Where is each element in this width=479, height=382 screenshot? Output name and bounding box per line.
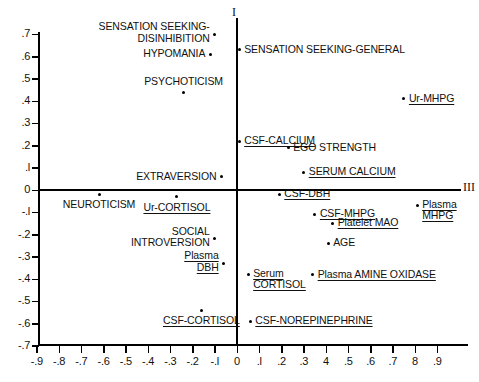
data-point-label: Ur-CORTISOL: [107, 202, 247, 214]
scatter-plot-figure: I III .7.6.5.4.3.2.l0-.l-.2-.3-.4-.5-.6-…: [0, 0, 479, 382]
data-point-label: SERUM CALCIUM: [309, 166, 396, 178]
data-point-marker: [220, 175, 223, 178]
data-point-label: AGE: [333, 237, 355, 249]
data-point-label: Plasma MHPG: [422, 199, 456, 222]
data-point-label: HYPOMANIA: [143, 48, 205, 60]
data-point-marker: [331, 222, 334, 225]
data-point-label: Plasma AMINE OXIDASE: [318, 269, 436, 281]
x-axis-tick-mark: [348, 346, 350, 353]
x-zero-axis-line: [38, 189, 461, 191]
y-axis-tick-label: -.7: [0, 340, 30, 351]
data-point-marker: [311, 273, 314, 276]
data-point-marker: [402, 97, 405, 100]
x-axis-tick-mark: [148, 346, 150, 353]
y-axis-tick-label: .6: [0, 51, 30, 62]
y-axis-tick-label: .7: [0, 28, 30, 39]
y-axis-tick-mark: [32, 212, 39, 214]
y-axis-tick-label: .2: [0, 140, 30, 151]
data-point-marker: [302, 171, 305, 174]
data-point-marker: [213, 237, 216, 240]
x-axis-tick-mark: [36, 346, 38, 353]
data-point-label: Platelet MAO: [338, 217, 399, 229]
y-axis-tick-label: -.l: [0, 206, 30, 217]
data-point-label: EXTRAVERSION: [136, 171, 216, 183]
y-axis-tick-mark: [32, 234, 39, 236]
y-axis-tick-label: -.6: [0, 318, 30, 329]
data-point-marker: [98, 193, 101, 196]
data-point-marker: [247, 273, 250, 276]
data-point-label: Ur-MHPG: [409, 93, 454, 105]
data-point-marker: [278, 193, 281, 196]
y-axis-tick-label: -.3: [0, 251, 30, 262]
x-axis-tick-mark: [237, 346, 239, 353]
data-point-label: CSF-DBH: [284, 188, 330, 200]
y-axis-tick-mark: [32, 256, 39, 258]
data-point-label: Serum CORTISOL: [253, 268, 306, 291]
data-point-marker: [213, 33, 216, 36]
y-axis-tick-mark: [32, 301, 39, 303]
x-axis-tick-mark: [59, 346, 61, 353]
data-point-marker: [209, 53, 212, 56]
data-point-marker: [249, 320, 252, 323]
y-axis-tick-mark: [32, 78, 39, 80]
x-axis-tick-mark: [125, 346, 127, 353]
y-axis-tick-mark: [32, 190, 39, 192]
y-zero-axis-line: [236, 18, 238, 345]
data-point-marker: [222, 262, 225, 265]
y-axis-tick-label: .l: [0, 162, 30, 173]
x-axis-tick-mark: [259, 346, 261, 353]
data-point-marker: [287, 146, 290, 149]
data-point-marker: [238, 48, 241, 51]
data-point-marker: [416, 204, 419, 207]
data-point-label: SENSATION SEEKING-GENERAL: [244, 44, 405, 56]
data-point-label: EGO STRENGTH: [293, 142, 376, 154]
y-axis-tick-label: -.2: [0, 229, 30, 240]
y-axis-tick-label: -.4: [0, 273, 30, 284]
y-axis-tick-label: .3: [0, 117, 30, 128]
axis-label-vertical: I: [232, 6, 236, 18]
y-axis-tick-mark: [32, 34, 39, 36]
axis-label-horizontal: III: [463, 181, 475, 193]
y-axis-tick-label: -.5: [0, 295, 30, 306]
data-point-label: CSF-NOREPINEPHRINE: [255, 315, 372, 327]
x-axis-tick-mark: [437, 346, 439, 353]
x-axis-tick-mark: [392, 346, 394, 353]
x-axis-tick-mark: [281, 346, 283, 353]
x-axis-tick-mark: [370, 346, 372, 353]
y-axis-tick-label: .5: [0, 73, 30, 84]
data-point-marker: [200, 309, 203, 312]
data-point-marker: [313, 213, 316, 216]
y-axis-tick-mark: [32, 145, 39, 147]
data-point-marker: [238, 140, 241, 143]
y-axis-tick-label: .4: [0, 95, 30, 106]
data-point-marker: [182, 91, 185, 94]
data-point-label: SOCIAL INTROVERSION: [131, 226, 210, 249]
x-axis-tick-mark: [326, 346, 328, 353]
y-axis-tick-mark: [32, 101, 39, 103]
y-axis-tick-label: 0: [0, 184, 30, 195]
data-point-label: SENSATION SEEKING- DISINHIBITION: [99, 21, 210, 44]
y-axis-tick-mark: [32, 323, 39, 325]
y-axis-tick-mark: [32, 56, 39, 58]
x-axis-tick-mark: [170, 346, 172, 353]
x-axis-tick-mark: [303, 346, 305, 353]
y-axis-tick-mark: [32, 279, 39, 281]
x-axis-tick-mark: [415, 346, 417, 353]
data-point-marker: [327, 242, 330, 245]
x-axis-tick-mark: [81, 346, 83, 353]
data-point-label: Plasma DBH: [184, 250, 218, 273]
x-axis-tick-mark: [214, 346, 216, 353]
data-point-marker: [175, 195, 178, 198]
x-axis-tick-mark: [103, 346, 105, 353]
data-point-label: PSYCHOTICISM: [114, 76, 254, 88]
x-axis-tick-mark: [192, 346, 194, 353]
x-axis-tick-label: .9: [422, 356, 452, 367]
y-axis-tick-mark: [32, 123, 39, 125]
y-axis-tick-mark: [32, 167, 39, 169]
